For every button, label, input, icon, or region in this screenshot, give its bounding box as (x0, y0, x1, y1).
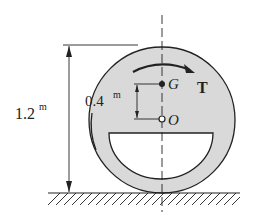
point-g-label: G (168, 76, 179, 92)
point-o-label: O (168, 112, 179, 128)
torque-label: T (197, 79, 208, 96)
ground-hatch (48, 193, 244, 205)
arrow-up-icon (66, 46, 72, 57)
height-unit-label: m (39, 101, 47, 112)
wheel-diagram: G O T 1.2 m 0.4 m (0, 0, 253, 217)
point-o-marker (159, 116, 165, 122)
arrow-down-icon (66, 181, 72, 192)
point-g-marker (159, 81, 165, 87)
offset-value-label: 0.4 (85, 93, 104, 109)
offset-unit-label: m (113, 89, 121, 100)
height-value-label: 1.2 (15, 105, 35, 122)
